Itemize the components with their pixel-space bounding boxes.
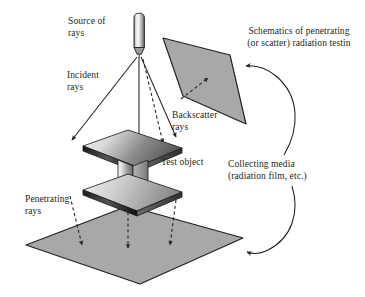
label-collecting-media: Collecting media (radiation film, etc.) [228, 159, 348, 182]
connector-to-tilted-plate [246, 66, 295, 155]
label-backscatter-rays: Backscatter rays [172, 110, 242, 133]
label-incident-rays: Incident rays [67, 70, 125, 93]
connector-to-bottom-plate [247, 186, 295, 253]
test-object [83, 130, 182, 216]
penetrating-collecting-plate [26, 206, 243, 284]
radiation-source [134, 13, 144, 57]
label-test-object: Test object [161, 157, 231, 169]
label-penetrating-rays: Penetrating rays [25, 194, 97, 217]
radiation-testing-diagram: Schematics of penetrating (or scatter) r… [0, 0, 365, 297]
label-source-of-rays: Source of rays [68, 16, 120, 39]
diagram-title: Schematics of penetrating (or scatter) r… [224, 26, 365, 49]
